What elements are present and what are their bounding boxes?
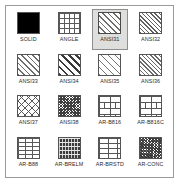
pattern-preview-icon	[58, 137, 81, 159]
pattern-name-label: ANGLE	[60, 36, 79, 43]
pattern-swatch-ar-brelm[interactable]: AR-BRELM	[49, 134, 90, 176]
pattern-swatch-ar-b816[interactable]: AR-B816	[90, 92, 131, 134]
pattern-swatch-ansi38[interactable]: ANSI38	[49, 92, 90, 134]
pattern-swatch-ansi34[interactable]: ANSI34	[49, 51, 90, 93]
pattern-swatch-ansi37[interactable]: ANSI37	[8, 92, 49, 134]
pattern-name-label: ANSI33	[19, 78, 38, 85]
pattern-name-label: SOLID	[20, 36, 37, 43]
pattern-name-label: ANSI36	[141, 78, 160, 85]
pattern-swatch-ar-b816c[interactable]: AR-B816C	[130, 92, 171, 134]
pattern-preview-icon	[98, 54, 121, 76]
hatch-pattern-grid: SOLIDANGLEANSI31ANSI32ANSI33ANSI34ANSI35…	[6, 6, 173, 177]
pattern-name-label: AR-B816	[99, 119, 122, 126]
hatch-pattern-palette-panel: SOLIDANGLEANSI31ANSI32ANSI33ANSI34ANSI35…	[5, 5, 174, 178]
pattern-name-label: ANSI35	[100, 78, 119, 85]
pattern-preview-icon	[17, 95, 40, 117]
pattern-swatch-ar-conc[interactable]: AR-CONC	[130, 134, 171, 176]
pattern-preview-icon	[58, 54, 81, 76]
pattern-preview-icon	[98, 137, 121, 159]
pattern-name-label: AR-B88	[19, 161, 38, 168]
pattern-preview-icon	[58, 95, 81, 117]
pattern-preview-icon	[17, 12, 40, 34]
pattern-name-label: ANSI34	[60, 78, 79, 85]
pattern-preview-icon	[98, 95, 121, 117]
pattern-swatch-ansi33[interactable]: ANSI33	[8, 51, 49, 93]
pattern-name-label: ANSI32	[141, 36, 160, 43]
pattern-preview-icon	[139, 137, 162, 159]
pattern-swatch-solid[interactable]: SOLID	[8, 9, 49, 51]
pattern-name-label: ANSI38	[60, 119, 79, 126]
pattern-swatch-ansi31[interactable]: ANSI31	[90, 9, 131, 51]
pattern-preview-icon	[17, 54, 40, 76]
pattern-name-label: AR-CONC	[138, 161, 164, 168]
pattern-name-label: ANSI31	[100, 36, 119, 43]
pattern-swatch-ansi36[interactable]: ANSI36	[130, 51, 171, 93]
pattern-preview-icon	[139, 95, 162, 117]
pattern-preview-icon	[58, 12, 81, 34]
pattern-name-label: AR-BRELM	[55, 161, 84, 168]
pattern-swatch-ar-b88[interactable]: AR-B88	[8, 134, 49, 176]
pattern-swatch-ansi32[interactable]: ANSI32	[130, 9, 171, 51]
pattern-preview-icon	[139, 54, 162, 76]
pattern-preview-icon	[98, 12, 121, 34]
pattern-preview-icon	[139, 12, 162, 34]
pattern-swatch-ansi35[interactable]: ANSI35	[90, 51, 131, 93]
pattern-name-label: AR-BRSTD	[96, 161, 124, 168]
pattern-preview-icon	[17, 137, 40, 159]
pattern-name-label: AR-B816C	[137, 119, 164, 126]
pattern-swatch-ar-brstd[interactable]: AR-BRSTD	[90, 134, 131, 176]
pattern-name-label: ANSI37	[19, 119, 38, 126]
pattern-swatch-angle[interactable]: ANGLE	[49, 9, 90, 51]
